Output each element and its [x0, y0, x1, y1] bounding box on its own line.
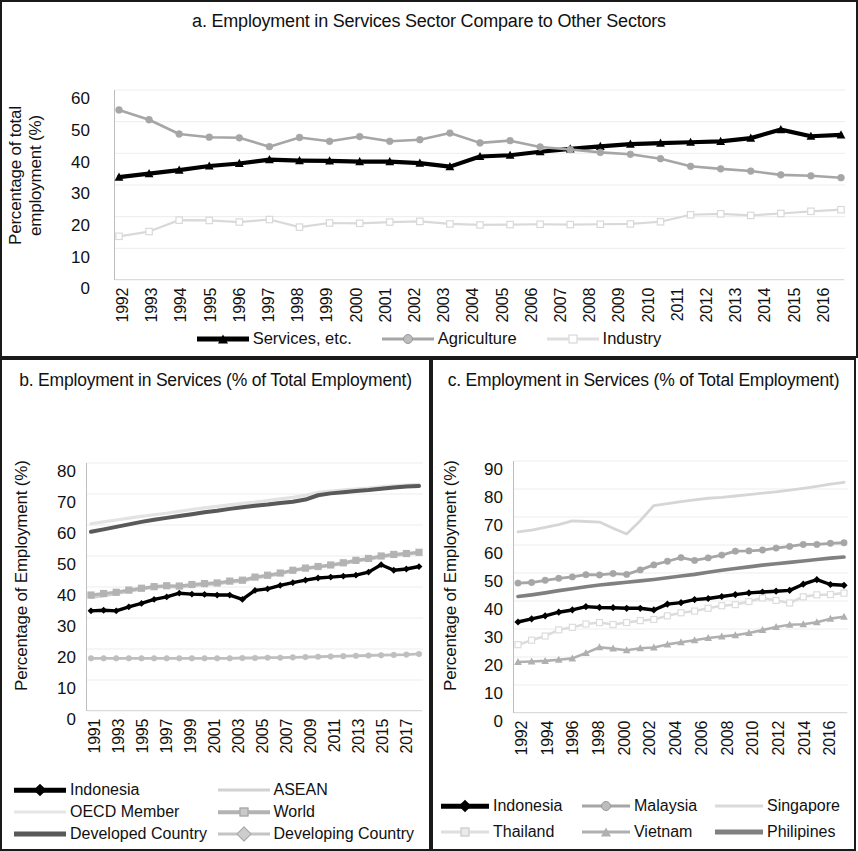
panel-c-yticks: 9080706050403020100 — [465, 461, 503, 713]
data-point — [236, 219, 242, 225]
legend-item-world[interactable]: World — [218, 803, 422, 821]
data-point — [773, 545, 779, 551]
legend-item-industry[interactable]: Industry — [547, 329, 662, 348]
data-point — [528, 615, 535, 622]
tick-label: 1997 — [158, 719, 182, 753]
data-point — [515, 580, 521, 586]
legend-label: Developed Country — [70, 825, 207, 843]
data-point — [391, 652, 397, 658]
data-point — [677, 599, 684, 606]
data-point — [800, 593, 806, 599]
legend-item-oecd-member[interactable]: OECD Member — [14, 803, 218, 821]
panel-c-plotarea — [513, 461, 847, 713]
tick-label: 2008 — [719, 721, 745, 755]
data-point — [266, 217, 272, 223]
tick-label: 2005 — [494, 288, 523, 322]
data-point — [302, 576, 309, 583]
line-swatch-icon — [218, 783, 270, 797]
tick-label: 2006 — [523, 288, 552, 322]
tick-label: 2001 — [377, 288, 406, 322]
legend-item-singapore[interactable]: Singapore — [715, 797, 848, 815]
tick-label: 2011 — [326, 719, 350, 752]
data-point — [719, 602, 725, 608]
data-point — [678, 609, 684, 615]
legend-label: World — [274, 803, 316, 821]
data-point — [116, 107, 123, 114]
data-point — [732, 548, 738, 554]
legend-item-asean[interactable]: ASEAN — [218, 781, 422, 799]
data-point — [507, 222, 513, 228]
series-line-singapore — [518, 482, 844, 534]
data-point — [189, 581, 195, 587]
tick-label: 2012 — [698, 288, 727, 322]
legend-item-philipines[interactable]: Philipines — [715, 823, 848, 841]
data-point — [657, 219, 663, 225]
data-point — [176, 583, 182, 589]
line-swatch-icon — [715, 799, 763, 813]
data-point — [746, 598, 752, 604]
legend-label: OECD Member — [70, 803, 179, 821]
tick-label: 2004 — [667, 721, 693, 755]
line-swatch-icon — [441, 799, 489, 813]
tick-label: 1998 — [590, 721, 616, 755]
data-point — [378, 553, 384, 559]
data-point — [838, 207, 844, 213]
data-point — [692, 608, 698, 614]
data-point — [88, 592, 94, 598]
data-point — [772, 587, 779, 594]
tick-label: 1995 — [134, 719, 158, 753]
legend-item-indonesia[interactable]: Indonesia — [14, 781, 218, 799]
data-point — [326, 138, 333, 145]
data-point — [542, 612, 549, 619]
data-point — [691, 557, 697, 563]
legend-item-services[interactable]: Services, etc. — [197, 329, 352, 348]
data-point — [555, 608, 562, 615]
data-point — [277, 570, 283, 576]
legend-label: Developing Country — [274, 825, 415, 843]
tick-label: 2015 — [374, 719, 398, 753]
legend-item-developing-country[interactable]: Developing Country — [218, 825, 422, 843]
data-point — [252, 655, 258, 661]
panel-b-ylabel: Percentage of Employment (%) — [12, 443, 34, 708]
data-point — [718, 593, 725, 600]
tick-label: 2014 — [756, 288, 785, 322]
tick-label: 2000 — [348, 288, 377, 322]
line-swatch-icon — [547, 332, 599, 346]
legend-label: Industry — [603, 329, 662, 348]
data-point — [113, 655, 119, 661]
tick-label: 1998 — [289, 288, 318, 322]
data-point — [327, 573, 334, 580]
data-point — [265, 655, 271, 661]
data-point — [126, 655, 132, 661]
data-point — [841, 539, 847, 545]
data-point — [239, 577, 245, 583]
panel-b-xticks: 1991199319951997199920012003200520072009… — [86, 719, 422, 777]
tick-label: 1999 — [182, 719, 206, 753]
data-point — [328, 562, 334, 568]
tick-label: 1995 — [202, 288, 231, 322]
data-point — [176, 131, 183, 138]
data-point — [627, 151, 634, 158]
line-swatch-icon — [218, 827, 270, 841]
legend-item-malaysia[interactable]: Malaysia — [582, 797, 715, 815]
line-swatch-icon — [582, 799, 630, 813]
data-point — [340, 572, 347, 579]
data-point — [416, 651, 422, 657]
legend-item-thailand[interactable]: Thailand — [441, 823, 582, 841]
legend-item-developed-country[interactable]: Developed Country — [14, 825, 218, 843]
data-point — [290, 567, 296, 573]
legend-item-agriculture[interactable]: Agriculture — [382, 329, 517, 348]
legend-label: Vietnam — [634, 823, 692, 841]
legend-item-indonesia[interactable]: Indonesia — [441, 797, 582, 815]
data-point — [687, 212, 693, 218]
legend-item-vietnam[interactable]: Vietnam — [582, 823, 715, 841]
panel-c-title: c. Employment in Services (% of Total Em… — [433, 360, 854, 391]
tick-label: 2001 — [206, 719, 230, 753]
data-point — [664, 612, 670, 618]
tick-label: 2013 — [350, 719, 374, 753]
data-point — [596, 603, 603, 610]
panel-a-yticks: 6050403020100 — [54, 90, 90, 280]
data-point — [597, 619, 603, 625]
data-point — [542, 577, 548, 583]
tick-label: 2006 — [693, 721, 719, 755]
